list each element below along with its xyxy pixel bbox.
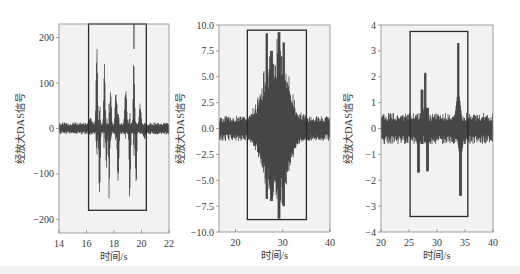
x-axis-label: 时间/s — [423, 249, 450, 261]
y-tick-label: −2 — [365, 175, 376, 186]
y-tick-label: 0 — [49, 123, 54, 134]
x-tick-label: 18 — [109, 238, 119, 249]
y-tick-label: −1 — [365, 149, 376, 160]
y-tick-label: −100 — [33, 168, 54, 179]
x-tick-label: 35 — [460, 237, 470, 248]
y-tick-label: 5.0 — [202, 71, 215, 82]
y-tick-label: −4 — [365, 227, 376, 238]
chart-panel-2: 203040−10.0−7.5−5.0−2.50.02.55.07.510.0时… — [174, 20, 335, 262]
x-tick-label: 22 — [164, 238, 174, 249]
y-tick-label: 10.0 — [197, 20, 215, 31]
x-tick-label: 20 — [231, 237, 241, 248]
x-axis-label: 时间/s — [100, 250, 127, 262]
y-tick-label: −200 — [33, 214, 54, 225]
x-tick-label: 30 — [432, 237, 442, 248]
figure: 1416182022−200−1000100200时间/s经放大DAS信号 20… — [0, 0, 520, 274]
x-tick-label: 14 — [54, 238, 64, 249]
bottom-band — [0, 266, 520, 274]
y-tick-label: 100 — [39, 78, 54, 89]
x-tick-label: 16 — [82, 238, 92, 249]
x-tick-label: 40 — [488, 237, 498, 248]
x-tick-label: 20 — [137, 238, 147, 249]
y-tick-label: −3 — [365, 201, 376, 212]
y-tick-label: 0 — [371, 123, 376, 134]
y-tick-label: 1 — [371, 97, 376, 108]
y-tick-label: −7.5 — [196, 201, 214, 212]
y-tick-label: −5.0 — [196, 175, 214, 186]
chart-panel-1: 1416182022−200−1000100200时间/s经放大DAS信号 — [14, 24, 174, 262]
y-axis-label: 经放大DAS信号 — [174, 93, 186, 164]
chart-panel-3: 2025303540−4−3−2−101234时间/s经放大DAS信号 — [342, 20, 498, 262]
y-tick-label: 4 — [371, 20, 376, 31]
y-tick-label: 2 — [371, 71, 376, 82]
y-tick-label: 2.5 — [202, 97, 215, 108]
y-tick-label: −2.5 — [196, 149, 214, 160]
x-tick-label: 40 — [325, 237, 335, 248]
y-axis-label: 经放大DAS信号 — [14, 93, 26, 164]
x-tick-label: 20 — [376, 237, 386, 248]
y-tick-label: −10.0 — [191, 227, 214, 238]
y-tick-label: 3 — [371, 45, 376, 56]
x-axis-label: 时间/s — [261, 249, 288, 261]
x-tick-label: 30 — [278, 237, 288, 248]
y-tick-label: 200 — [39, 32, 54, 43]
y-axis-label: 经放大DAS信号 — [342, 93, 354, 164]
y-tick-label: 0.0 — [202, 123, 215, 134]
x-tick-label: 25 — [404, 237, 414, 248]
y-tick-label: 7.5 — [202, 45, 215, 56]
